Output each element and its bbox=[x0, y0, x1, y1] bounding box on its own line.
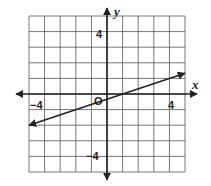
y-tick-neg4: −4 bbox=[86, 150, 99, 162]
x-tick-pos4: 4 bbox=[168, 99, 175, 111]
x-axis-label: x bbox=[191, 77, 199, 92]
x-tick-neg4: −4 bbox=[30, 99, 43, 111]
y-axis-label: y bbox=[112, 4, 120, 19]
origin-label: O bbox=[94, 95, 103, 107]
coordinate-graph: y x O −4 4 4 −4 bbox=[0, 0, 211, 186]
y-tick-pos4: 4 bbox=[96, 28, 103, 40]
